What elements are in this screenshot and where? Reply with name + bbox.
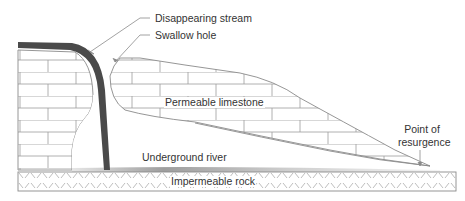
- label-disappearing-stream: Disappearing stream: [155, 13, 252, 24]
- label-impermeable-rock: Impermeable rock: [170, 176, 256, 187]
- label-point-of-resurgence-line1: Point of: [398, 124, 446, 135]
- label-point-of-resurgence: Point of resurgence: [398, 124, 446, 147]
- label-point-of-resurgence-line2: resurgence: [398, 137, 446, 148]
- label-permeable-limestone: Permeable limestone: [164, 97, 265, 108]
- label-underground-river: Underground river: [142, 152, 227, 163]
- label-swallow-hole: Swallow hole: [155, 30, 216, 41]
